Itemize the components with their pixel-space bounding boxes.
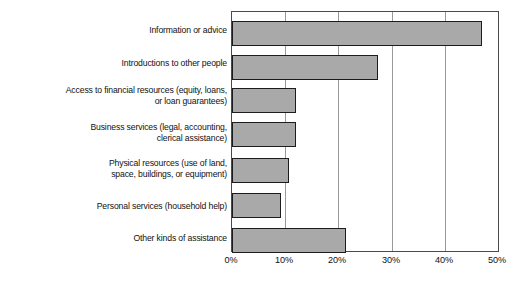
plot-area <box>231 11 499 252</box>
x-tick-label: 20% <box>328 254 346 266</box>
category-label: Personal services (household help) <box>16 201 227 212</box>
bar <box>232 158 289 183</box>
bar <box>232 122 296 147</box>
x-tick-label: 50% <box>488 254 506 266</box>
bar <box>232 55 378 80</box>
category-label: Physical resources (use of land, space, … <box>16 158 227 181</box>
category-label: Other kinds of assistance <box>16 233 227 244</box>
x-axis: 0%10%20%30%40%50% <box>231 254 497 272</box>
bar-chart: Information or advice Introductions to o… <box>0 0 525 287</box>
category-label: Information or advice <box>16 25 227 36</box>
bar <box>232 228 346 253</box>
bar <box>232 193 281 218</box>
x-tick-label: 40% <box>435 254 453 266</box>
gridline <box>445 12 446 251</box>
category-label: Business services (legal, accounting, cl… <box>16 122 227 145</box>
x-tick-label: 0% <box>224 254 237 266</box>
bar <box>232 88 296 113</box>
x-tick-label: 10% <box>275 254 293 266</box>
bar <box>232 21 482 46</box>
category-label: Introductions to other people <box>16 58 227 69</box>
gridline <box>338 12 339 251</box>
category-label: Access to financial resources (equity, l… <box>16 85 227 108</box>
gridline <box>392 12 393 251</box>
x-tick-label: 30% <box>381 254 399 266</box>
category-axis-labels: Information or advice Introductions to o… <box>0 11 227 250</box>
